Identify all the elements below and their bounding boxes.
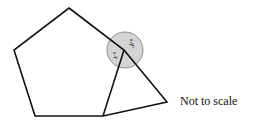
not-to-scale-note: Not to scale — [180, 94, 237, 109]
pentagon — [14, 8, 124, 116]
